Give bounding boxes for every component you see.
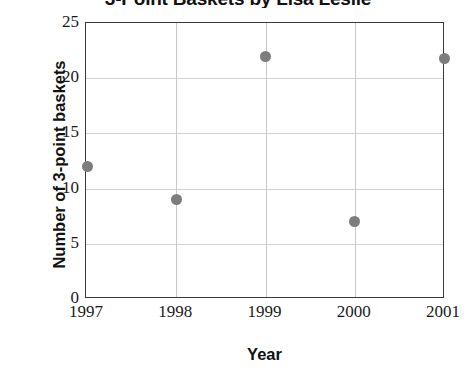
data-point [439, 53, 450, 64]
y-axis-tick-label: 5 [45, 234, 79, 251]
data-point [171, 194, 182, 205]
gridline-vertical [355, 23, 356, 297]
y-axis-tick-label: 20 [45, 68, 79, 85]
chart-title: 3-Point Baskets by Lisa Leslie [0, 0, 476, 8]
x-axis-tick-label: 2000 [319, 303, 389, 320]
y-axis-tick-label: 15 [45, 123, 79, 140]
x-axis-tick-label: 1997 [51, 303, 121, 320]
gridline-horizontal [86, 78, 443, 79]
x-axis-tick-labels: 19971998199920002001 [85, 303, 444, 325]
x-axis-title: Year [85, 345, 444, 364]
gridline-horizontal [86, 133, 443, 134]
x-axis-tick-label: 1998 [140, 303, 210, 320]
y-axis-tick-labels: 0510152025 [41, 22, 79, 298]
chart-figure: 3-Point Baskets by Lisa Leslie Number of… [0, 0, 476, 380]
gridline-vertical [176, 23, 177, 297]
y-axis-tick-label: 10 [45, 179, 79, 196]
x-axis-tick-label: 2001 [408, 303, 476, 320]
y-axis-tick-label: 25 [45, 13, 79, 30]
data-point [82, 161, 93, 172]
gridline-horizontal [86, 189, 443, 190]
plot-area [85, 22, 444, 298]
gridline-horizontal [86, 244, 443, 245]
gridline-vertical [266, 23, 267, 297]
x-axis-tick-label: 1999 [230, 303, 300, 320]
data-point [349, 216, 360, 227]
data-point [260, 51, 271, 62]
